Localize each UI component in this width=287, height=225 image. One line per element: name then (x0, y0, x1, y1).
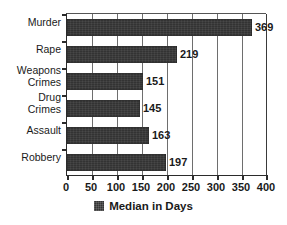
x-axis-tick-label-0: 0 (63, 181, 69, 194)
gridline-100 (117, 14, 118, 175)
y-axis-label-assault: Assault (0, 125, 61, 137)
x-axis-tick-labels: 0 50 100 150 200 250 300 350 400 (0, 181, 287, 197)
x-axis-tick-label-400: 400 (257, 181, 275, 194)
chart-legend: Median in Days (0, 200, 287, 212)
gridline-50 (92, 14, 93, 175)
bar-robbery (67, 154, 166, 171)
y-axis-label-weapons-crimes: Weapons Crimes (0, 65, 61, 88)
x-axis-tick-400 (266, 175, 268, 180)
legend-label-median-in-days: Median in Days (109, 200, 193, 212)
y-axis-tick-4 (62, 122, 67, 124)
bar-murder (67, 19, 252, 36)
data-label-assault: 163 (152, 130, 170, 141)
bar-weapons-crimes (67, 73, 143, 90)
y-axis-label-rape: Rape (0, 44, 61, 56)
y-axis-tick-2 (62, 68, 67, 70)
y-axis-tick-3 (62, 95, 67, 97)
x-axis-tick-100 (117, 175, 119, 180)
x-axis-tick-300 (217, 175, 219, 180)
x-axis-tick-label-200: 200 (157, 181, 175, 194)
x-axis-tick-350 (242, 175, 244, 180)
bar-drug-crimes (67, 100, 140, 117)
gridline-350 (242, 14, 243, 175)
x-axis-tick-label-300: 300 (207, 181, 225, 194)
x-axis-tick-label-100: 100 (107, 181, 125, 194)
x-axis-tick-0 (67, 175, 69, 180)
x-axis-tick-150 (142, 175, 144, 180)
plot-area: 369 219 151 145 163 197 (66, 13, 266, 176)
y-axis-tick-5 (62, 149, 67, 151)
legend-swatch-icon (94, 201, 104, 211)
y-axis-label-robbery: Robbery (0, 152, 61, 164)
y-axis-label-drug-crimes: Drug Crimes (0, 92, 61, 115)
y-axis-category-labels: Murder Rape Weapons Crimes Drug Crimes A… (0, 13, 61, 176)
y-axis-label-murder: Murder (0, 17, 61, 29)
data-label-robbery: 197 (169, 157, 187, 168)
bar-chart: Murder Rape Weapons Crimes Drug Crimes A… (0, 0, 287, 225)
bar-assault (67, 127, 149, 144)
gridline-300 (217, 14, 218, 175)
data-label-weapons-crimes: 151 (146, 76, 164, 87)
x-axis-tick-250 (192, 175, 194, 180)
bar-rape (67, 46, 177, 63)
data-label-rape: 219 (180, 49, 198, 60)
x-axis-tick-200 (167, 175, 169, 180)
x-axis-tick-label-250: 250 (182, 181, 200, 194)
x-axis-tick-50 (92, 175, 94, 180)
y-axis-tick-1 (62, 41, 67, 43)
gridline-150 (142, 14, 143, 175)
gridline-400 (266, 14, 267, 175)
gridline-200 (167, 14, 168, 175)
data-label-murder: 369 (255, 22, 273, 33)
x-axis-tick-label-350: 350 (232, 181, 250, 194)
x-axis-tick-label-50: 50 (85, 181, 97, 194)
x-axis-tick-label-150: 150 (132, 181, 150, 194)
gridline-250 (192, 14, 193, 175)
data-label-drug-crimes: 145 (143, 103, 161, 114)
y-axis-tick-top (62, 14, 67, 16)
